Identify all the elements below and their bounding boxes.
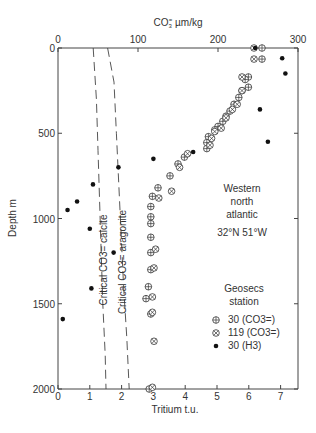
dot-icon [280,56,285,61]
dot-marker [60,317,65,322]
circle-x-icon [212,128,219,135]
top-tick-label: 0 [55,34,61,45]
circle-x-icon [208,135,215,142]
dot-marker [280,56,285,61]
circle-x-icon [156,195,163,202]
circle-plus-icon [259,56,266,63]
region-label: north [231,196,254,207]
bottom-tick-label: 6 [246,391,252,402]
bottom-tick-label: 1 [87,391,93,402]
circle-x-icon [213,330,220,337]
aragonite-label: Critical CO3= aragonite [117,209,128,314]
top-tick-label: 100 [130,34,147,45]
dot-icon [266,139,271,144]
dot-icon [258,107,263,112]
dot-icon [116,165,121,170]
circle-x-icon [149,294,156,301]
dot-marker [191,150,196,155]
circle-x-icon [239,87,246,94]
bottom-tick-label: 0 [55,391,61,402]
legend-title: Geosecs [224,283,263,294]
calcite-label: Critical CO3= calcite [98,214,109,305]
circle-x-icon [251,56,258,63]
legend-label: 30 (CO3=) [228,314,275,325]
dot-marker [89,286,94,291]
dot-marker [258,107,263,112]
region-label: atlantic [226,209,258,220]
dot-marker [266,139,271,144]
dot-marker [116,165,121,170]
circle-plus-icon [236,94,243,101]
coords-label: 32°N 51°W [217,227,267,238]
dot-icon [75,199,80,204]
circle-x-icon [151,265,158,272]
dot-icon [60,317,65,322]
dot-icon [89,286,94,291]
dot-icon [253,46,258,51]
circle-plus-icon [148,234,155,241]
bottom-axis-title: Tritium t.u. [152,404,199,415]
circle-plus-icon [167,173,174,180]
circle-x-icon [218,125,225,132]
dot-marker [283,71,288,76]
annotations: Westernnorthatlantic32°N 51°WGeosecsstat… [98,183,280,351]
dot-icon [214,344,219,349]
dot-icon [65,208,70,213]
bottom-tick-label: 7 [278,391,284,402]
circle-x-icon [149,384,156,391]
bottom-tick-label: 4 [182,391,188,402]
circle-x-icon [149,309,156,316]
circle-plus-icon [148,213,155,220]
bottom-tick-label: 5 [214,391,220,402]
circle-plus-icon [148,203,155,210]
left-tick-label: 2000 [33,384,56,395]
dot-marker [151,157,156,162]
circle-x-icon [152,246,159,253]
circle-x-icon [184,150,191,157]
circle-plus-icon [149,193,156,200]
dot-marker [111,250,116,255]
circle-plus-icon [213,317,220,324]
dot-icon [111,250,116,255]
circle-x-icon [229,106,236,113]
circle-x-icon [151,338,158,345]
legend-title: station [229,296,258,307]
top-tick-label: 200 [210,34,227,45]
dot-icon [88,226,93,231]
top-axis-title: CO3= µm/kg [153,17,202,29]
left-tick-label: 0 [49,43,55,54]
y-axis-title: Depth m [7,199,18,237]
circle-x-icon [168,188,175,195]
dot-marker [253,46,258,51]
circle-plus-icon [155,185,162,192]
circle-plus-icon [145,283,152,290]
circle-x-icon [234,101,241,108]
dot-marker [88,226,93,231]
dot-marker [91,182,96,187]
dot-icon [91,182,96,187]
bottom-tick-label: 2 [119,391,125,402]
chart: 0100200300CO3= µm/kg01234567Tritium t.u.… [0,0,316,433]
left-tick-label: 500 [38,128,55,139]
circle-plus-icon [259,45,266,52]
legend-label: 30 (H3) [228,340,261,351]
top-tick-label: 300 [290,34,307,45]
left-tick-label: 1500 [33,299,56,310]
circle-x-icon [223,115,230,122]
circle-plus-icon [245,84,252,91]
legend-label: 119 (CO3=) [228,327,280,338]
circle-x-icon [176,164,183,171]
dot-marker [65,208,70,213]
dot-icon [151,157,156,162]
left-tick-label: 1000 [33,214,56,225]
circle-plus-icon [148,220,155,227]
circle-x-icon [239,74,246,81]
region-label: Western [223,183,260,194]
dot-marker [75,199,80,204]
dot-icon [191,150,196,155]
dot-icon [283,71,288,76]
axes: 0100200300CO3= µm/kg01234567Tritium t.u.… [7,17,307,415]
circle-plus-icon [143,295,150,302]
bottom-tick-label: 3 [151,391,157,402]
circle-x-icon [207,142,214,149]
